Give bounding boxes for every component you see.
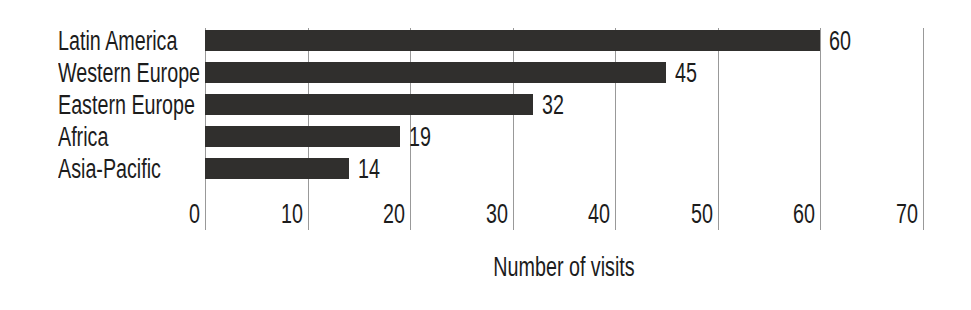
bar-latin-america [205,30,820,51]
gridline-40 [615,28,616,230]
category-label: Western Europe [58,59,200,87]
x-tick-label-10: 10 [259,200,303,228]
category-label: Africa [58,123,108,151]
gridline-50 [718,28,719,230]
x-tick-label-50: 50 [669,200,713,228]
category-label: Eastern Europe [58,91,195,119]
x-tick-label-30: 30 [464,200,508,228]
gridline-30 [513,28,514,230]
category-label: Latin America [58,27,177,55]
x-tick-label-20: 20 [361,200,405,228]
bar-chart-figure: 010203040506070Latin America60Western Eu… [0,0,971,310]
bar-value-label: 32 [542,91,564,119]
gridline-70 [923,28,924,230]
x-tick-label-40: 40 [566,200,610,228]
bar-value-label: 45 [675,59,697,87]
bar-western-europe [205,62,666,83]
bar-africa [205,126,400,147]
x-tick-label-0: 0 [156,200,200,228]
x-axis-title: Number of visits [302,253,826,281]
bar-value-label: 19 [409,123,431,151]
category-label: Asia-Pacific [58,155,161,183]
gridline-60 [820,28,821,230]
bar-eastern-europe [205,94,533,115]
bar-value-label: 60 [829,27,851,55]
bar-asia-pacific [205,158,349,179]
x-tick-label-60: 60 [771,200,815,228]
x-tick-label-70: 70 [874,200,918,228]
bar-value-label: 14 [358,155,380,183]
